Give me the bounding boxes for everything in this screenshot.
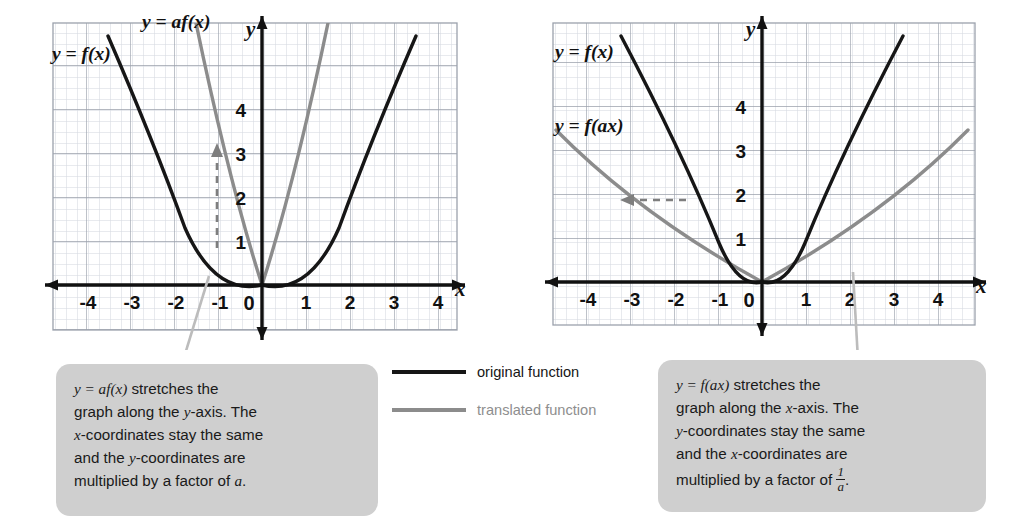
legend-swatch-translated-line [392,408,466,411]
figure-root: y x -4 -3 -2 -1 0 1 2 3 4 1 2 3 4 y = f(… [0,0,1016,522]
legend-label-original: original function [477,364,579,380]
legend-item-translated: translated function [392,402,596,418]
legend-label-translated: translated function [477,402,596,418]
legend-swatch-original-line [392,370,466,373]
legend-item-original: original function [392,364,579,380]
legend: original function translated function [0,0,1016,522]
